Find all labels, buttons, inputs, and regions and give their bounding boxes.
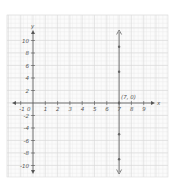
data-point [118,46,120,48]
y-tick-label: 10 [22,38,29,44]
x-tick-label: 1 [44,106,48,112]
x-tick-label: 2 [56,106,60,112]
data-point [118,102,120,104]
data-point [118,158,120,160]
data-point [118,71,120,73]
x-axis-label: x [156,100,161,106]
x-tick-label: 7 [118,106,122,112]
x-tick-label: 3 [68,106,72,112]
y-tick-label: 4 [26,75,30,81]
y-tick-label: 8 [26,50,30,56]
coordinate-plane: -10123456789108642-2-4-6-8-10 x y (7, 0) [0,0,174,182]
x-tick-label: 5 [93,106,97,112]
x-tick-label: 4 [81,106,85,112]
x-tick-label: -1 [19,106,24,112]
y-tick-label: -6 [24,138,30,144]
y-tick-label: 2 [26,88,30,94]
y-tick-label: 6 [26,63,30,69]
point-annotation: (7, 0) [121,94,136,100]
x-tick-label: 8 [130,106,134,112]
y-tick-label: -4 [24,125,30,131]
x-tick-label: 9 [142,106,146,112]
y-tick-label: -8 [24,150,30,156]
x-tick-label: 0 [27,106,31,112]
y-tick-label: -2 [24,113,30,119]
y-axis-label: y [30,23,35,30]
data-point [118,133,120,135]
x-tick-label: 6 [105,106,109,112]
y-tick-label: -10 [20,163,29,169]
